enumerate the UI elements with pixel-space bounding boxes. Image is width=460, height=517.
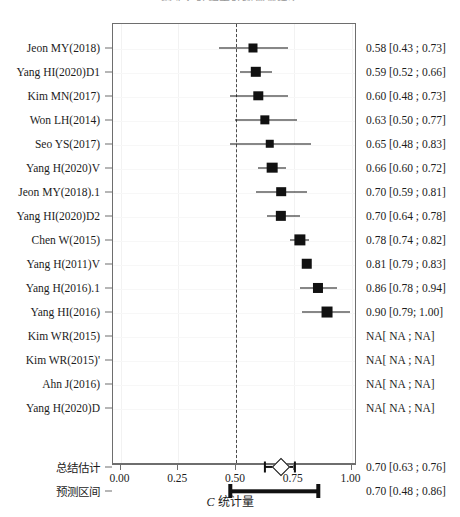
x-axis-tick-label: 0.75	[283, 472, 303, 484]
study-value-label: 0.70 [0.59 ; 0.81]	[366, 186, 446, 198]
study-label: Jeon MY(2018)	[27, 42, 100, 54]
x-axis-title-text: 统计量	[218, 495, 254, 509]
study-value-label: NA[ NA ; NA]	[366, 354, 435, 366]
y-axis-tick	[105, 408, 112, 409]
effect-size-marker	[294, 234, 305, 245]
study-label: Seo YS(2017)	[35, 138, 100, 150]
study-label: Chen W(2015)	[32, 234, 100, 246]
grid-line-horizontal	[113, 49, 355, 50]
study-value-label: 0.58 [0.43 ; 0.73]	[366, 42, 446, 54]
grid-line-horizontal	[113, 121, 355, 122]
study-label: Yang HI(2016)	[31, 306, 100, 318]
y-axis-tick	[105, 167, 112, 168]
study-label: Yang H(2020)V	[26, 162, 100, 174]
study-label: Yang H(2016).1	[26, 282, 100, 294]
y-axis-tick-summary	[105, 467, 112, 468]
y-axis-tick	[105, 143, 112, 144]
study-value-label: 0.59 [0.52 ; 0.66]	[366, 66, 446, 78]
effect-size-marker	[267, 162, 278, 173]
study-value-label: NA[ NA ; NA]	[366, 402, 435, 414]
y-axis-tick	[105, 47, 112, 48]
summary-interval-cap	[264, 462, 266, 473]
prediction-label: 预测区间	[56, 483, 100, 499]
effect-size-marker	[253, 91, 262, 100]
x-axis-tick	[235, 464, 236, 470]
grid-line-horizontal	[113, 385, 355, 386]
y-axis-tick	[105, 71, 112, 72]
effect-size-marker	[276, 187, 286, 197]
grid-line-horizontal	[113, 337, 355, 338]
y-axis-tick	[105, 119, 112, 120]
study-value-label: 0.70 [0.64 ; 0.78]	[366, 210, 446, 222]
grid-line-horizontal	[113, 265, 355, 266]
grid-line-horizontal	[113, 217, 355, 218]
study-value-label: 0.63 [0.50 ; 0.77]	[366, 114, 446, 126]
reference-line	[236, 24, 237, 463]
effect-size-marker	[276, 211, 286, 221]
x-axis-tick-label: 1.00	[340, 472, 360, 484]
study-value-label: 0.66 [0.60 ; 0.72]	[366, 162, 446, 174]
effect-size-marker	[322, 307, 333, 318]
effect-size-marker	[265, 139, 273, 147]
prediction-value-label: 0.70 [0.48 ; 0.86]	[366, 485, 446, 497]
prediction-interval-bar	[230, 490, 318, 493]
effect-size-marker	[301, 259, 312, 270]
y-axis-tick	[105, 312, 112, 313]
y-axis-tick	[105, 263, 112, 264]
y-axis-tick	[105, 288, 112, 289]
x-axis-tick-label: 0.00	[109, 472, 129, 484]
y-axis-tick	[105, 239, 112, 240]
study-label: Ahn J(2016)	[42, 378, 100, 390]
study-value-label: NA[ NA ; NA]	[366, 330, 435, 342]
summary-label: 总结估计	[56, 459, 100, 475]
y-axis-tick-prediction	[105, 491, 112, 492]
y-axis-tick	[105, 360, 112, 361]
forest-plot-figure: 图 4 乙肝相关肝癌预测模型 C 统计量 Jeon MY(2018)0.58 […	[0, 0, 460, 517]
prediction-interval-cap	[229, 484, 232, 498]
study-label: Kim MN(2017)	[27, 90, 100, 102]
study-label: Yang HI(2020)D2	[17, 210, 100, 222]
grid-line-vertical	[121, 24, 122, 463]
effect-size-marker	[313, 283, 323, 293]
grid-line-horizontal	[113, 361, 355, 362]
grid-line-horizontal	[113, 145, 355, 146]
study-label: Yang HI(2020)D1	[17, 66, 100, 78]
study-value-label: 0.78 [0.74 ; 0.82]	[366, 234, 446, 246]
effect-size-marker	[249, 43, 258, 52]
effect-size-marker	[251, 66, 261, 76]
y-axis-tick	[105, 191, 112, 192]
grid-line-horizontal	[113, 313, 355, 314]
x-axis-line	[112, 464, 356, 465]
study-label: Yang H(2011)V	[27, 258, 100, 270]
study-label: Jeon MY(2018).1	[18, 186, 100, 198]
grid-line-horizontal	[113, 409, 355, 410]
x-axis-title-symbol: C	[206, 495, 214, 509]
study-value-label: 0.65 [0.48 ; 0.83]	[366, 138, 446, 150]
study-value-label: 0.60 [0.48 ; 0.73]	[366, 90, 446, 102]
x-axis-tick	[293, 464, 294, 470]
y-axis-tick	[105, 336, 112, 337]
study-label: Kim WR(2015)'	[26, 354, 100, 366]
plot-area	[112, 23, 356, 464]
grid-line-horizontal	[113, 97, 355, 98]
study-value-label: 0.86 [0.78 ; 0.94]	[366, 282, 446, 294]
x-axis-tick	[177, 464, 178, 470]
grid-line-horizontal	[113, 241, 355, 242]
study-value-label: NA[ NA ; NA]	[366, 378, 435, 390]
y-axis-tick	[105, 215, 112, 216]
y-axis-tick	[105, 95, 112, 96]
grid-line-vertical	[178, 24, 179, 463]
grid-line-horizontal	[113, 193, 355, 194]
x-axis-tick-label: 0.50	[225, 472, 245, 484]
study-label: Kim WR(2015)	[28, 330, 100, 342]
study-value-label: 0.81 [0.79 ; 0.83]	[366, 258, 446, 270]
prediction-interval-cap	[316, 484, 319, 498]
figure-title: 图 4 乙肝相关肝癌预测模型	[0, 0, 460, 1]
y-axis-tick	[105, 384, 112, 385]
study-label: Yang H(2020)D	[26, 402, 100, 414]
grid-line-horizontal	[113, 73, 355, 74]
grid-line-vertical	[352, 24, 353, 463]
effect-size-marker	[260, 115, 269, 124]
study-value-label: 0.90 [0.79; 1.00]	[366, 306, 443, 318]
study-label: Won LH(2014)	[30, 114, 100, 126]
